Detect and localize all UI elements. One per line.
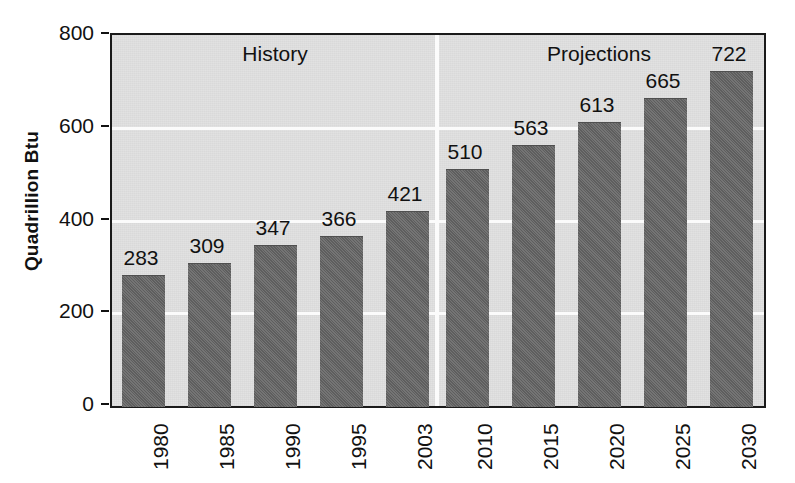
bar-value-label: 613 xyxy=(579,94,614,115)
bar[interactable] xyxy=(254,245,297,407)
bar[interactable] xyxy=(578,122,621,407)
x-axis-tick-label: 2003 xyxy=(414,423,435,470)
bar-value-label: 563 xyxy=(513,117,548,138)
y-axis-tick-label: 0 xyxy=(30,393,94,414)
x-axis-tick-label: 2030 xyxy=(738,423,759,470)
y-axis-tick-label: 600 xyxy=(30,115,94,136)
y-axis-tick-mark xyxy=(101,403,109,405)
x-axis-tick-label: 2010 xyxy=(474,423,495,470)
y-axis-tick-label: 400 xyxy=(30,208,94,229)
bar-value-label: 366 xyxy=(321,208,356,229)
bar-value-label: 510 xyxy=(447,141,482,162)
x-axis-tick-label: 1995 xyxy=(348,423,369,470)
y-axis-tick-mark xyxy=(101,310,109,312)
section-label-projections: Projections xyxy=(547,42,651,66)
y-axis-tick-mark xyxy=(101,218,109,220)
x-axis-tick-label: 1985 xyxy=(216,423,237,470)
y-axis-tick-label: 200 xyxy=(30,300,94,321)
bar-value-label: 283 xyxy=(123,247,158,268)
y-axis-tick-label: 800 xyxy=(30,22,94,43)
bar[interactable] xyxy=(446,169,489,407)
section-label-history: History xyxy=(242,42,307,66)
bar[interactable] xyxy=(188,263,231,407)
bar-value-label: 347 xyxy=(255,217,290,238)
y-axis-tick-mark xyxy=(101,125,109,127)
x-axis-tick-label: 2020 xyxy=(606,423,627,470)
x-axis-tick-label: 1980 xyxy=(150,423,171,470)
x-axis-tick-label: 1990 xyxy=(282,423,303,470)
bar[interactable] xyxy=(644,98,687,407)
bar[interactable] xyxy=(320,236,363,407)
x-axis-tick-label: 2025 xyxy=(672,423,693,470)
history-projections-divider xyxy=(435,35,439,406)
bar[interactable] xyxy=(386,211,429,407)
y-axis-tick-mark xyxy=(101,32,109,34)
bar-value-label: 309 xyxy=(189,235,224,256)
bar[interactable] xyxy=(710,71,753,407)
x-axis-tick-label: 2015 xyxy=(540,423,561,470)
bar-chart: Quadrillion Btu 0200400600800 HistoryPro… xyxy=(0,0,795,483)
bar-value-label: 421 xyxy=(387,183,422,204)
bar-value-label: 722 xyxy=(711,43,746,64)
bar[interactable] xyxy=(512,145,555,407)
bar[interactable] xyxy=(122,275,165,407)
bar-value-label: 665 xyxy=(645,70,680,91)
